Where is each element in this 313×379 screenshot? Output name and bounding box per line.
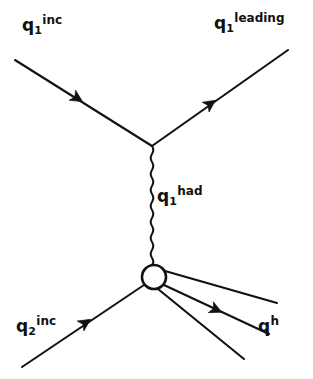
- feynman-diagram-figure: q1inc q1leading q1had q2inc qh: [0, 0, 313, 379]
- arrowhead-outgoing-hadron-middle: [208, 302, 224, 318]
- label-q1-leading-sub: 1: [226, 22, 234, 35]
- label-q2-inc-sub: 2: [28, 325, 36, 338]
- label-q2-inc-base: q: [16, 316, 28, 336]
- label-q1-leading-base: q: [214, 13, 226, 33]
- label-q2-inc-sup: inc: [36, 314, 56, 328]
- label-q1-inc-base: q: [22, 15, 34, 35]
- line-outgoing-hadron-upper: [165, 271, 277, 303]
- hadronisation-blob: [142, 265, 166, 289]
- label-q1-inc-sup: inc: [42, 13, 62, 27]
- label-outgoing-hadron: qh: [258, 318, 279, 335]
- line-leading-quark-1: [152, 50, 288, 146]
- arrowhead-incoming-quark-1: [69, 90, 86, 107]
- line-incoming-quark-1: [15, 60, 152, 146]
- label-q1-had-base: q: [157, 186, 169, 206]
- label-hadronic-quark-1: q1had: [157, 188, 203, 205]
- label-q1-had-sub: 1: [169, 195, 177, 208]
- label-q1-inc-sub: 1: [34, 24, 42, 37]
- label-q1-leading-sup: leading: [234, 11, 284, 25]
- label-leading-quark-1: q1leading: [214, 15, 285, 32]
- label-qh-sup: h: [270, 314, 279, 328]
- label-q1-had-sup: had: [177, 184, 202, 198]
- label-incoming-quark-1: q1inc: [22, 17, 62, 34]
- line-hadronic-quark-propagator: [151, 146, 154, 265]
- label-qh-base: q: [258, 316, 270, 336]
- line-outgoing-hadron-lower: [158, 289, 244, 359]
- label-incoming-quark-2: q2inc: [16, 318, 56, 335]
